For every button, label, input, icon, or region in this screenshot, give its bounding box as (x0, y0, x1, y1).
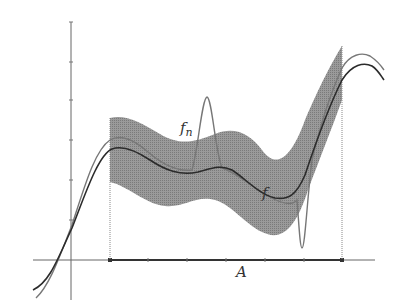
set-A-label: A (234, 263, 247, 281)
fn-label: fn (179, 119, 193, 139)
convergence-diagram: fn f A (0, 0, 406, 308)
